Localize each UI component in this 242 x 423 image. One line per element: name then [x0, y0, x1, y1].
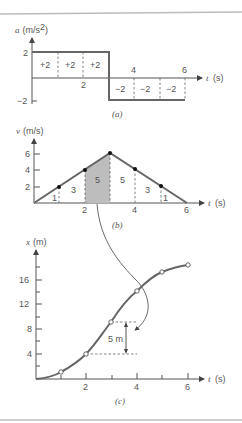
a-xtick-2: 2: [81, 80, 86, 90]
b-data-point: [57, 185, 61, 189]
c-xlabel-var: t: [208, 374, 211, 384]
curved-connector-arrow: [97, 204, 148, 330]
b-data-point: [108, 151, 112, 155]
c-data-point: [160, 270, 164, 274]
a-ytick-2: 2: [23, 48, 28, 58]
graph-a-acceleration: a(m/s2) t (s) 2 −2 +2 +2 +2 −2 −2 −2 2 4…: [15, 22, 224, 119]
a-area-label: −2: [166, 84, 176, 94]
c-xtick-2: 2: [83, 382, 88, 392]
b-area-label: 1: [52, 193, 57, 203]
c-ylabel: x(m): [25, 237, 47, 247]
b-area-label: 5: [120, 175, 125, 185]
a-area-label: −2: [115, 84, 125, 94]
b-area-label: 1: [163, 193, 168, 203]
b-xlabel-var: t: [208, 198, 211, 208]
b-caption: (b): [112, 220, 123, 230]
a-area-label: −2: [140, 84, 150, 94]
b-area-label: 5: [95, 175, 100, 185]
graph-b-velocity: v(m/s) t (s) 2 4 6 1 3 5 5 3 1 2 4 6 (b): [16, 126, 226, 230]
graph-c-position: x(m) t (s) 4 8 12 16 2 4 6 5 m: [19, 237, 226, 406]
a-ylabel: a(m/s2): [15, 22, 48, 35]
c-data-point: [186, 263, 190, 267]
b-xtick-4: 4: [132, 205, 137, 215]
a-xlabel-var: t: [206, 73, 209, 83]
c-ytick-8: 8: [27, 324, 32, 334]
c-ytick-4: 4: [27, 349, 32, 359]
c-xtick-4: 4: [134, 382, 139, 392]
a-area-label: +2: [40, 60, 50, 70]
c-xlabel-unit: (s): [215, 374, 226, 384]
c-data-point: [135, 289, 139, 293]
c-ytick-12: 12: [19, 299, 29, 309]
a-xtick-4: 4: [131, 65, 136, 75]
c-data-point: [59, 370, 63, 374]
b-area-label: 3: [145, 185, 150, 195]
c-caption: (c): [115, 396, 125, 406]
b-xlabel-unit: (s): [215, 198, 226, 208]
b-ylabel: v(m/s): [16, 126, 44, 136]
c-ytick-16: 16: [19, 275, 29, 285]
top-rule: [0, 12, 242, 14]
b-xtick-6: 6: [184, 205, 189, 215]
a-area-label: +2: [65, 60, 75, 70]
a-xlabel-unit: (s): [213, 73, 224, 83]
b-ytick-2: 2: [25, 182, 30, 192]
b-xtick-2: 2: [82, 205, 87, 215]
b-data-point: [133, 167, 137, 171]
c-5m-annotation: 5 m: [108, 334, 123, 344]
b-ytick-6: 6: [25, 149, 30, 159]
a-area-label: +2: [90, 60, 100, 70]
a-caption: (a): [112, 109, 123, 119]
a-ytick-neg2: −2: [17, 96, 27, 106]
c-data-point: [109, 320, 113, 324]
b-data-point: [83, 168, 87, 172]
b-area-label: 3: [71, 185, 76, 195]
c-xtick-6: 6: [185, 382, 190, 392]
c-data-point: [84, 352, 88, 356]
a-step-line: [32, 52, 185, 100]
b-data-point: [159, 184, 163, 188]
a-xtick-6: 6: [182, 65, 187, 75]
b-ytick-4: 4: [25, 165, 30, 175]
kinematics-diagram: a(m/s2) t (s) 2 −2 +2 +2 +2 −2 −2 −2 2 4…: [0, 0, 242, 423]
